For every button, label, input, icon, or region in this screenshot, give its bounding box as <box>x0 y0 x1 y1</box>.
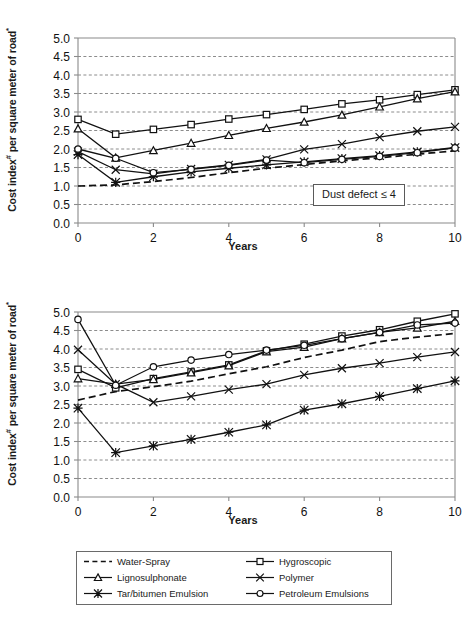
legend-label: Petroleum Emulsions <box>279 589 369 599</box>
legend-grid: Water-SprayHygroscopicLignosulphonatePol… <box>83 556 385 599</box>
legend-item-hygroscopic: Hygroscopic <box>245 556 393 567</box>
svg-text:0.0: 0.0 <box>53 491 70 505</box>
legend-item-lignosulphonate: Lignosulphonate <box>83 572 245 583</box>
legend-key-dashed-line-icon <box>83 556 113 567</box>
svg-text:2.0: 2.0 <box>53 417 70 431</box>
svg-text:0.0: 0.0 <box>53 217 70 231</box>
legend-item-petroleum-emulsions: Petroleum Emulsions <box>245 588 393 599</box>
x-axis-title-bottom: Years <box>78 514 408 526</box>
chart-panel-bottom: Cost index# per square meter of road* 0.… <box>0 282 469 540</box>
svg-text:1.5: 1.5 <box>53 435 70 449</box>
legend-item-water-spray: Water-Spray <box>83 556 245 567</box>
legend-key-cross-icon <box>245 572 275 583</box>
y-axis-title-top: Cost index# per square meter of road* <box>4 20 22 220</box>
svg-text:3.0: 3.0 <box>53 380 70 394</box>
svg-text:1.0: 1.0 <box>53 180 70 194</box>
svg-text:0.5: 0.5 <box>53 198 70 212</box>
plot-svg-top: 0.00.51.01.52.02.53.03.54.04.55.00246810 <box>30 8 465 266</box>
legend-item-tar-bitumen-emulsion: Tar/bitumen Emulsion <box>83 588 245 599</box>
legend-key-star-icon <box>83 588 113 599</box>
svg-text:10: 10 <box>448 231 462 245</box>
svg-text:2.5: 2.5 <box>53 124 70 138</box>
svg-text:1.5: 1.5 <box>53 161 70 175</box>
svg-text:4.5: 4.5 <box>53 50 70 64</box>
svg-text:0.5: 0.5 <box>53 472 70 486</box>
legend-key-triangle-icon <box>83 572 113 583</box>
y-axis-title-bottom: Cost index# per square meter of road* <box>4 294 22 494</box>
legend-label: Tar/bitumen Emulsion <box>117 589 208 599</box>
legend-label: Lignosulphonate <box>117 573 187 583</box>
legend-label: Polymer <box>279 573 314 583</box>
svg-text:3.5: 3.5 <box>53 87 70 101</box>
legend-item-polymer: Polymer <box>245 572 393 583</box>
svg-text:5.0: 5.0 <box>53 306 70 320</box>
legend-key-square-icon <box>245 556 275 567</box>
svg-text:5.0: 5.0 <box>53 32 70 46</box>
plot-area-bottom: 0.00.51.01.52.02.53.03.54.04.55.00246810 <box>30 282 465 540</box>
svg-text:4.0: 4.0 <box>53 343 70 357</box>
plot-svg-bottom: 0.00.51.01.52.02.53.03.54.04.55.00246810 <box>30 282 465 540</box>
plot-area-top: 0.00.51.01.52.02.53.03.54.04.55.00246810 <box>30 8 465 266</box>
svg-text:2.0: 2.0 <box>53 143 70 157</box>
svg-text:3.0: 3.0 <box>53 106 70 120</box>
chart-legend: Water-SprayHygroscopicLignosulphonatePol… <box>76 551 392 605</box>
legend-label: Water-Spray <box>117 557 170 567</box>
annotation-box-top: Dust defect ≤ 4 <box>313 184 405 206</box>
figure-root: Cost index# per square meter of road* 0.… <box>0 0 469 634</box>
svg-text:2.5: 2.5 <box>53 398 70 412</box>
x-axis-title-top: Years <box>78 240 408 252</box>
svg-text:3.5: 3.5 <box>53 361 70 375</box>
svg-text:10: 10 <box>448 505 462 519</box>
svg-text:4.0: 4.0 <box>53 69 70 83</box>
chart-panel-top: Cost index# per square meter of road* 0.… <box>0 8 469 266</box>
legend-key-circle-icon <box>245 588 275 599</box>
svg-text:1.0: 1.0 <box>53 454 70 468</box>
legend-label: Hygroscopic <box>279 557 331 567</box>
svg-text:4.5: 4.5 <box>53 324 70 338</box>
